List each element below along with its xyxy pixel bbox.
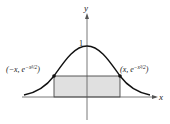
gaussian-rectangle-diagram: y x 1 (−x, e−x²/2) (x, e−x²/2)	[0, 0, 170, 124]
right-point-base: (x, e	[120, 65, 134, 74]
right-point-label: (x, e−x²/2)	[120, 64, 149, 74]
left-point-marker	[52, 74, 56, 78]
right-point-exponent: −x²/2	[134, 64, 146, 70]
left-point-exponent: −x²/2	[25, 64, 37, 70]
left-point-close: )	[36, 65, 40, 74]
left-point-base: (−x, e	[6, 65, 26, 74]
left-point-label: (−x, e−x²/2)	[6, 64, 40, 74]
x-axis-arrow-icon	[152, 95, 158, 99]
right-point-close: )	[145, 65, 149, 74]
x-axis-label: x	[158, 92, 163, 102]
y-axis-label: y	[83, 3, 88, 13]
peak-label: 1	[79, 39, 83, 48]
right-point-marker	[118, 74, 122, 78]
y-axis-arrow-icon	[85, 13, 89, 19]
